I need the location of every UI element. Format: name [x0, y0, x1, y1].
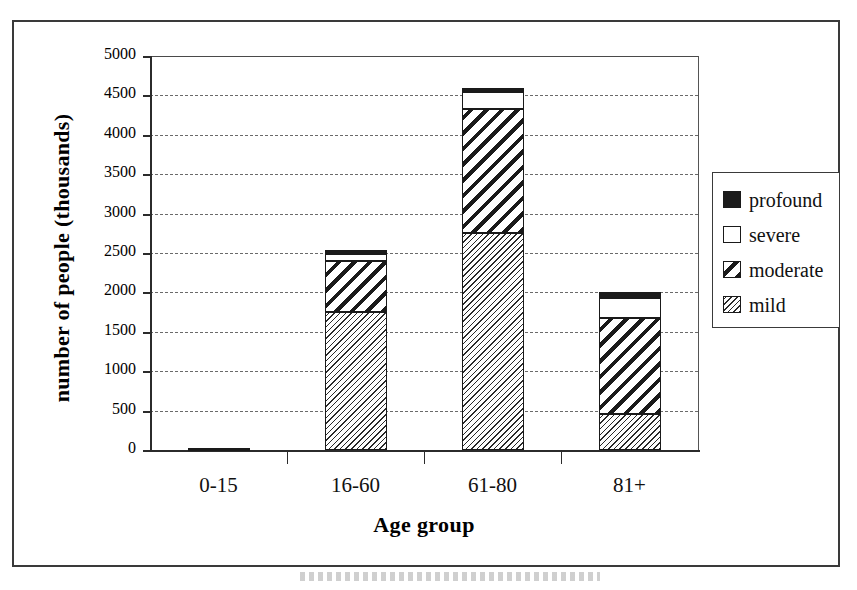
legend-item-mild: mild	[723, 287, 839, 322]
legend-item-profound: profound	[723, 182, 839, 217]
legend: profoundseveremoderatemild	[712, 172, 840, 328]
bar-segment-moderate	[462, 109, 524, 234]
x-tick-separator	[287, 450, 288, 464]
bar-segment-mild	[599, 414, 661, 450]
bar-segment-profound	[188, 448, 250, 450]
bar-segment-mild	[325, 312, 387, 450]
solid-black-swatch	[723, 191, 741, 208]
bar-segment-severe	[325, 254, 387, 261]
bar-segment-moderate	[599, 318, 661, 413]
legend-item-moderate: moderate	[723, 252, 839, 287]
empty-white-swatch	[723, 226, 741, 243]
x-tick-label-16-60: 16-60	[296, 473, 416, 497]
bar-segment-severe	[462, 92, 524, 109]
bar-segment-mild	[462, 233, 524, 450]
legend-item-severe: severe	[723, 217, 839, 252]
x-tick-label-81+: 81+	[570, 473, 690, 497]
y-axis-title: number of people (thousands)	[49, 68, 75, 448]
bar-segment-profound	[325, 250, 387, 254]
bar-segment-profound	[462, 88, 524, 93]
caption-fragment	[300, 572, 600, 581]
bar-0-15	[188, 56, 250, 450]
x-tick-separator	[424, 450, 425, 464]
bar-81+	[599, 56, 661, 450]
x-axis-title: Age group	[150, 512, 698, 538]
fine-diagonal-hatch-swatch	[723, 296, 741, 313]
wide-diagonal-hatch-swatch	[723, 261, 741, 278]
bar-segment-moderate	[325, 261, 387, 312]
plot-right-border	[698, 56, 699, 450]
y-tick-label: 5000	[60, 45, 136, 63]
bar-segment-profound	[599, 292, 661, 298]
bar-segment-severe	[599, 298, 661, 318]
legend-label: severe	[749, 225, 800, 245]
legend-label: mild	[749, 295, 786, 315]
legend-label: profound	[749, 190, 822, 210]
stacked-bar-chart: 0500100015002000250030003500400045005000…	[0, 0, 857, 590]
legend-label: moderate	[749, 260, 823, 280]
bar-16-60	[325, 56, 387, 450]
x-tick-label-61-80: 61-80	[433, 473, 553, 497]
x-tick-separator	[561, 450, 562, 464]
x-tick-label-0-15: 0-15	[159, 473, 279, 497]
bar-61-80	[462, 56, 524, 450]
